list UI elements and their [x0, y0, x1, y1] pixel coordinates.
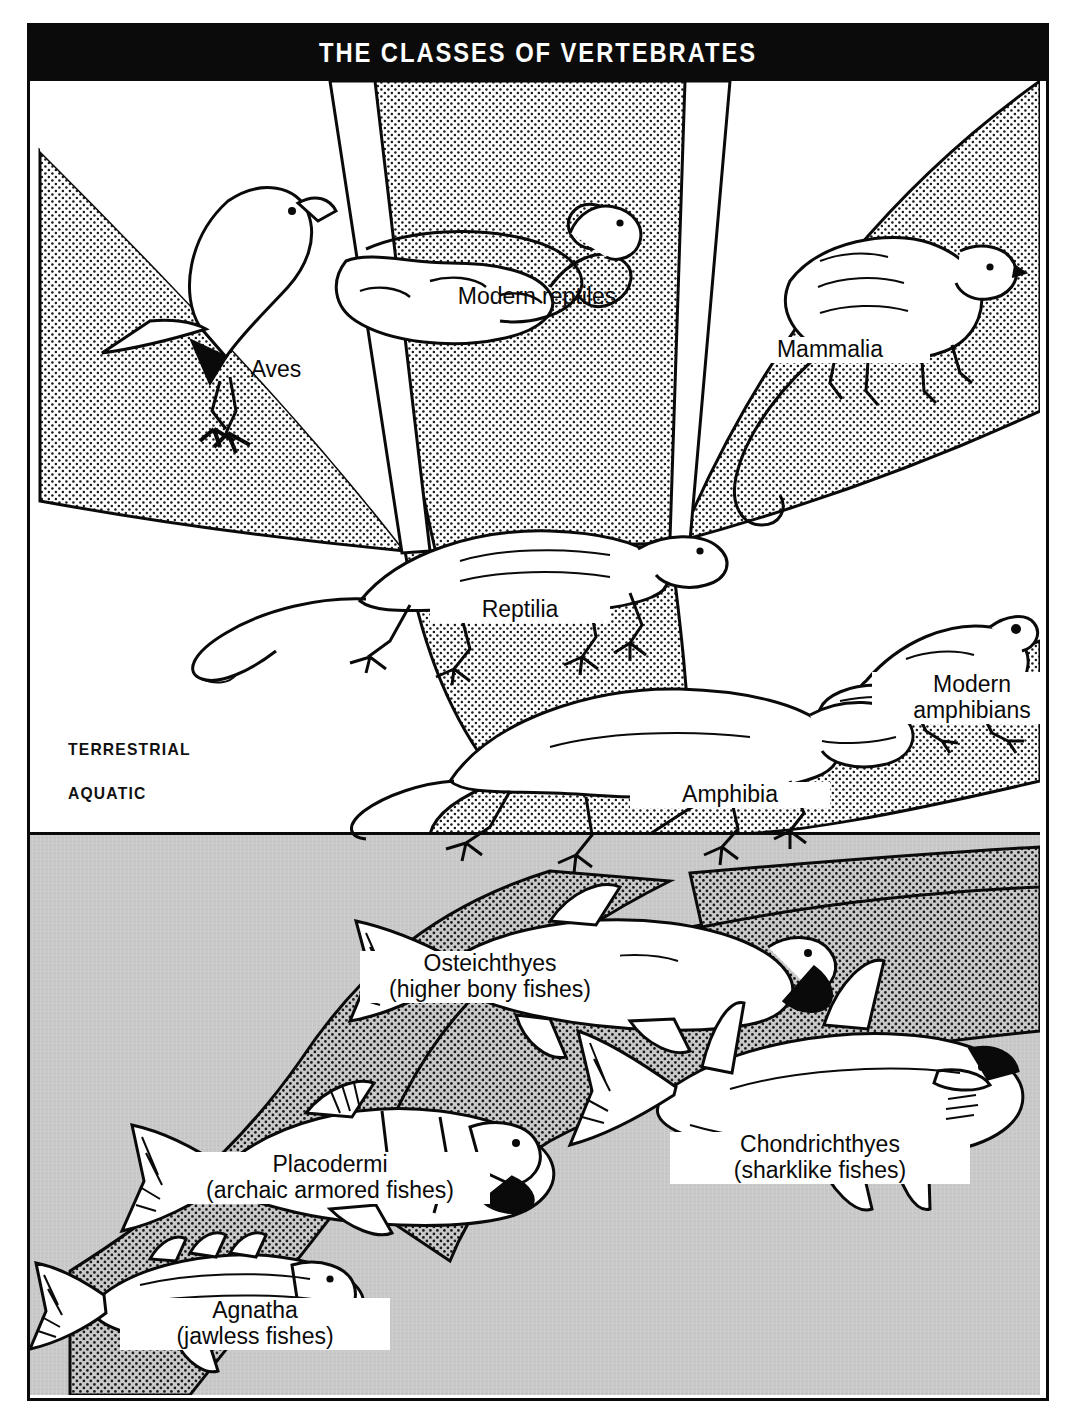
taxon-label-osteichthyes: Osteichthyes (higher bony fishes) — [360, 951, 620, 1003]
page-title: THE CLASSES OF VERTEBRATES — [91, 26, 985, 81]
diagram-frame: THE CLASSES OF VERTEBRATES — [27, 23, 1049, 1401]
taxon-label-chondrichthyes: Chondrichthyes (sharklike fishes) — [670, 1132, 970, 1184]
taxon-label-mammalia: Mammalia — [730, 337, 930, 363]
title-bar: THE CLASSES OF VERTEBRATES — [30, 26, 1046, 81]
habitat-divider — [30, 832, 1040, 835]
zone-label-aquatic: AQUATIC — [68, 784, 146, 804]
zone-label-terrestrial: TERRESTRIAL — [68, 740, 191, 760]
taxon-label-agnatha: Agnatha (jawless fishes) — [120, 1298, 390, 1350]
taxon-label-reptilia: Reptilia — [430, 597, 610, 623]
diagram-page: THE CLASSES OF VERTEBRATES — [0, 0, 1072, 1418]
taxon-label-modern-amphibians: Modern amphibians — [872, 672, 1049, 724]
taxon-label-modern-reptiles: Modern reptiles — [402, 284, 672, 310]
taxon-label-amphibia: Amphibia — [630, 782, 830, 808]
taxon-label-placodermi: Placodermi (archaic armored fishes) — [170, 1152, 490, 1204]
taxon-label-aves: Aves — [216, 357, 336, 383]
